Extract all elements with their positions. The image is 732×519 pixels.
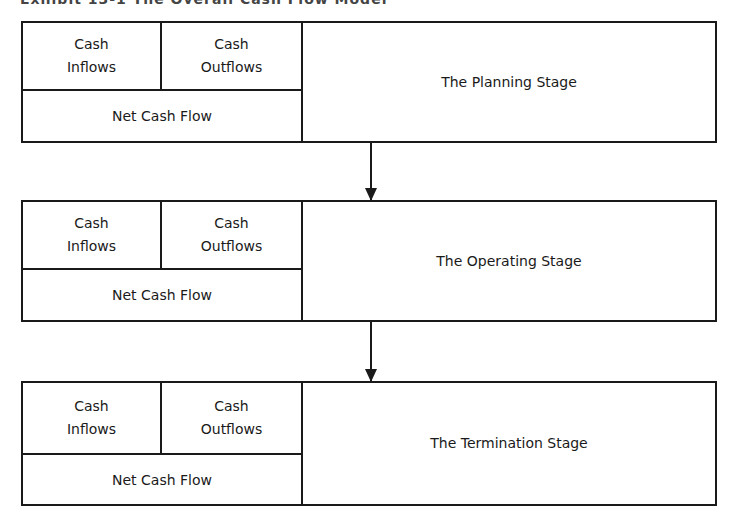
stage-box-operating: Cash Inflows Cash Outflows Net Cash Flow… (21, 200, 717, 322)
net-cash-flow-cell: Net Cash Flow (23, 455, 301, 505)
cash-inflows-line1: Cash (67, 395, 116, 418)
cash-inflows-line1: Cash (67, 212, 116, 235)
cash-outflows-line1: Cash (201, 33, 263, 56)
cash-outflows-cell: Cash Outflows (162, 383, 301, 455)
cash-inflows-cell: Cash Inflows (23, 383, 162, 455)
net-cash-flow-cell: Net Cash Flow (23, 270, 301, 320)
stage-label-termination: The Termination Stage (301, 383, 715, 504)
cash-outflows-line2: Outflows (201, 418, 263, 441)
stage-label-planning: The Planning Stage (301, 23, 715, 141)
cash-inflows-cell: Cash Inflows (23, 23, 162, 91)
cash-outflows-line2: Outflows (201, 235, 263, 258)
cash-inflows-line2: Inflows (67, 56, 116, 79)
cash-inflows-cell: Cash Inflows (23, 202, 162, 270)
exhibit-title: Exhibit 13-1 The Overall Cash Flow Model (20, 0, 387, 7)
cash-outflows-line1: Cash (201, 212, 263, 235)
cash-inflows-line2: Inflows (67, 418, 116, 441)
cash-outflows-line2: Outflows (201, 56, 263, 79)
stage-box-termination: Cash Inflows Cash Outflows Net Cash Flow… (21, 381, 717, 506)
cash-inflows-line2: Inflows (67, 235, 116, 258)
cash-outflows-cell: Cash Outflows (162, 202, 301, 270)
down-arrow-icon (370, 143, 372, 200)
cash-inflows-line1: Cash (67, 33, 116, 56)
stage-box-planning: Cash Inflows Cash Outflows Net Cash Flow… (21, 21, 717, 143)
cash-outflows-cell: Cash Outflows (162, 23, 301, 91)
down-arrow-icon (370, 322, 372, 381)
cash-outflows-line1: Cash (201, 395, 263, 418)
net-cash-flow-cell: Net Cash Flow (23, 91, 301, 141)
stage-label-operating: The Operating Stage (301, 202, 715, 320)
